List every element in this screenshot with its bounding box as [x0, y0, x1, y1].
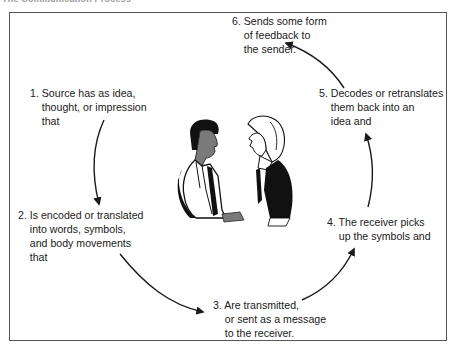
receiver-figure-icon	[248, 116, 292, 226]
arrow-4-to-5	[366, 134, 372, 207]
sender-figure-icon	[178, 120, 244, 222]
cycle-arrows	[0, 0, 460, 348]
arrow-5-to-6	[286, 43, 344, 88]
arrow-3-to-4	[302, 249, 354, 300]
arrow-2-to-3	[120, 254, 203, 312]
arrow-1-to-2	[94, 120, 104, 204]
